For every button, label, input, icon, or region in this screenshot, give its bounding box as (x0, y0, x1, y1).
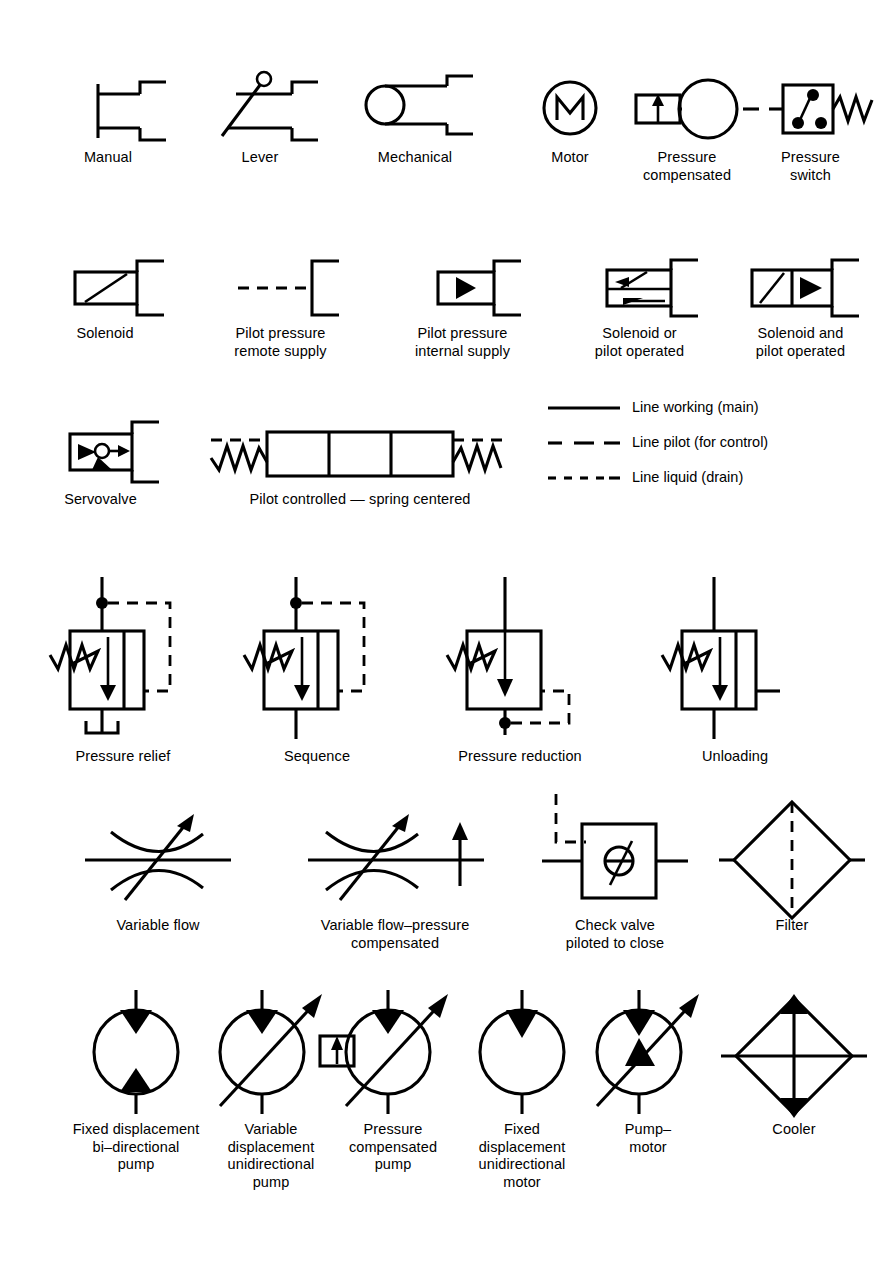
lever-icon (200, 70, 320, 144)
symbol-caption: Pilot pressure remote supply (188, 325, 373, 360)
pressure-compensated-icon (622, 78, 752, 144)
variable-flow-icon (73, 808, 243, 912)
symbol-caption: Mechanical (330, 149, 500, 167)
symbol-filter: Filter (712, 790, 872, 935)
symbol-sequence: Sequence (222, 575, 412, 766)
symbol-servovalve: Servovalve (18, 418, 183, 509)
symbol-caption: Solenoid (20, 325, 190, 343)
symbol-caption: Solenoid and pilot operated (718, 325, 878, 360)
symbol-caption: Sequence (222, 748, 412, 766)
symbol-fixed-displacement-unidirectional-motor: Fixed displacement unidirectional motor (452, 988, 592, 1191)
symbol-caption: Manual (28, 149, 188, 167)
legend-label: Line pilot (for control) (632, 434, 768, 451)
symbol-pilot-pressure-remote-supply: Pilot pressure remote supply (188, 258, 373, 360)
symbol-caption: Servovalve (18, 491, 183, 509)
pilot-controlled-spring-centered-icon (205, 418, 515, 486)
pressure-compensated-pump-icon (318, 988, 468, 1116)
solenoid-icon (43, 258, 168, 320)
symbol-fixed-displacement-bi-directional-pump: Fixed displacement bi–directional pump (56, 988, 216, 1174)
pressure-switch-icon (741, 78, 878, 144)
legend-label: Line liquid (drain) (632, 469, 743, 486)
symbol-unloading: Unloading (640, 575, 830, 766)
line-liquid-drain-icon (545, 470, 623, 486)
symbol-caption: Cooler (714, 1121, 874, 1139)
symbol-caption: Pilot pressure internal supply (370, 325, 555, 360)
legend-line-working-main: Line working (main) (545, 399, 759, 416)
symbol-caption: Unloading (640, 748, 830, 766)
symbol-caption: Variable flow–pressure compensated (290, 917, 500, 952)
symbol-variable-flow: Variable flow (58, 808, 258, 935)
symbol-caption: Fixed displacement unidirectional motor (452, 1121, 592, 1191)
legend-line-pilot-for-control: Line pilot (for control) (545, 434, 768, 451)
cooler-icon (719, 988, 869, 1116)
symbol-lever: Lever (180, 70, 340, 167)
motor-icon (535, 78, 605, 144)
fixed-displacement-bi-directional-pump-icon (76, 988, 196, 1116)
symbol-pilot-pressure-internal-supply: Pilot pressure internal supply (370, 258, 555, 360)
symbol-caption: Pressure relief (28, 748, 218, 766)
symbol-check-valve-piloted-to-close: Check valve piloted to close (530, 790, 700, 952)
legend-label: Line working (main) (632, 399, 759, 416)
manual-icon (48, 78, 168, 144)
symbol-caption: Fixed displacement bi–directional pump (56, 1121, 216, 1174)
symbol-manual: Manual (28, 78, 188, 167)
symbol-solenoid-and-pilot-operated: Solenoid and pilot operated (718, 258, 878, 360)
pilot-pressure-internal-supply-icon (400, 258, 525, 320)
line-working-main-icon (545, 400, 623, 416)
unloading-icon (650, 575, 820, 743)
symbol-caption: Pressure compensated pump (318, 1121, 468, 1174)
symbol-caption: Filter (712, 917, 872, 935)
solenoid-or-pilot-operated-icon (577, 258, 702, 320)
variable-flow-pressure-compensated-icon (300, 808, 490, 912)
symbol-pump-motor: Pump– motor (578, 988, 718, 1156)
symbol-caption: Pressure switch (738, 149, 878, 184)
symbol-caption: Check valve piloted to close (530, 917, 700, 952)
symbol-mechanical: Mechanical (330, 78, 500, 167)
symbol-caption: Variable flow (58, 917, 258, 935)
symbol-caption: Lever (180, 149, 340, 167)
solenoid-and-pilot-operated-icon (738, 258, 863, 320)
hydraulic-symbol-chart: Manual Lever Mechanical Motor (0, 0, 878, 1279)
pilot-pressure-remote-supply-icon (218, 258, 343, 320)
symbol-solenoid-or-pilot-operated: Solenoid or pilot operated (552, 258, 727, 360)
servovalve-icon (38, 418, 163, 486)
line-pilot-for-control-icon (545, 435, 623, 451)
symbol-caption: Pilot controlled — spring centered (195, 491, 525, 509)
symbol-cooler: Cooler (714, 988, 874, 1139)
symbol-pressure-switch: Pressure switch (738, 78, 878, 184)
symbol-caption: Pump– motor (578, 1121, 718, 1156)
symbol-variable-flow-pressure-compensated: Variable flow–pressure compensated (290, 808, 500, 952)
symbol-pressure-compensated-pump: Pressure compensated pump (318, 988, 468, 1174)
mechanical-icon (355, 78, 475, 144)
filter-icon (717, 790, 867, 912)
pressure-relief-icon (38, 575, 208, 743)
sequence-icon (232, 575, 402, 743)
symbol-caption: Solenoid or pilot operated (552, 325, 727, 360)
symbol-pressure-relief: Pressure relief (28, 575, 218, 766)
symbol-pressure-reduction: Pressure reduction (420, 575, 620, 766)
pump-motor-icon (581, 988, 716, 1116)
fixed-displacement-unidirectional-motor-icon (462, 988, 582, 1116)
symbol-solenoid: Solenoid (20, 258, 190, 343)
symbol-pilot-controlled-spring-centered: Pilot controlled — spring centered (195, 418, 525, 509)
symbol-caption: Pressure reduction (420, 748, 620, 766)
legend-line-liquid-drain: Line liquid (drain) (545, 469, 743, 486)
check-valve-piloted-to-close-icon (540, 790, 690, 912)
pressure-reduction-icon (435, 575, 605, 743)
